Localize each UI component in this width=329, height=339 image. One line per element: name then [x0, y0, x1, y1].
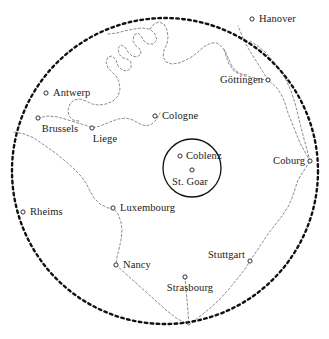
city-label-gottingen[interactable]: Göttingen — [220, 75, 263, 86]
city-label-rheims[interactable]: Rheims — [30, 207, 63, 218]
boundary-paths-group — [14, 22, 310, 325]
boundary-path-northern-coast-river-b — [150, 22, 247, 75]
boundary-path-nancy-strasbourg-south — [116, 265, 189, 325]
city-marker-st-goar[interactable] — [190, 168, 194, 172]
city-label-hanover[interactable]: Hanover — [259, 14, 296, 25]
range-circle-group — [12, 18, 318, 324]
city-label-coblenz[interactable]: Coblenz — [186, 151, 222, 162]
city-label-stuttgart[interactable]: Stuttgart — [208, 250, 245, 261]
city-marker-gottingen[interactable] — [266, 78, 270, 82]
city-label-st-goar[interactable]: St. Goar — [172, 177, 208, 188]
city-marker-strasbourg[interactable] — [183, 275, 187, 279]
city-marker-cologne[interactable] — [153, 114, 157, 118]
city-marker-coblenz[interactable] — [178, 154, 182, 158]
city-label-liege[interactable]: Liege — [93, 134, 117, 145]
outer-range-circle — [12, 18, 318, 324]
city-marker-hanover[interactable] — [250, 17, 254, 21]
city-marker-luxembourg[interactable] — [111, 206, 115, 210]
city-marker-coburg[interactable] — [308, 159, 312, 163]
city-label-nancy[interactable]: Nancy — [123, 260, 151, 271]
city-label-coburg[interactable]: Coburg — [273, 156, 305, 167]
boundary-path-stuttgart-coburg — [250, 161, 310, 261]
city-marker-liege[interactable] — [90, 126, 94, 130]
map-canvas: HanoverGöttingenAntwerpCologneBrusselsLi… — [0, 0, 329, 339]
city-marker-stuttgart[interactable] — [248, 259, 252, 263]
city-label-antwerp[interactable]: Antwerp — [53, 88, 90, 99]
city-label-luxembourg[interactable]: Luxembourg — [120, 203, 175, 214]
city-label-brussels[interactable]: Brussels — [42, 124, 78, 135]
city-label-cologne[interactable]: Cologne — [162, 111, 198, 122]
city-marker-brussels[interactable] — [36, 116, 40, 120]
city-marker-rheims[interactable] — [21, 210, 25, 214]
boundary-path-coburg-gottingen — [268, 80, 310, 161]
map-vector-layer — [0, 0, 329, 339]
city-marker-antwerp[interactable] — [44, 91, 48, 95]
city-marker-nancy[interactable] — [114, 263, 118, 267]
city-label-strasbourg[interactable]: Strasbourg — [167, 283, 213, 294]
